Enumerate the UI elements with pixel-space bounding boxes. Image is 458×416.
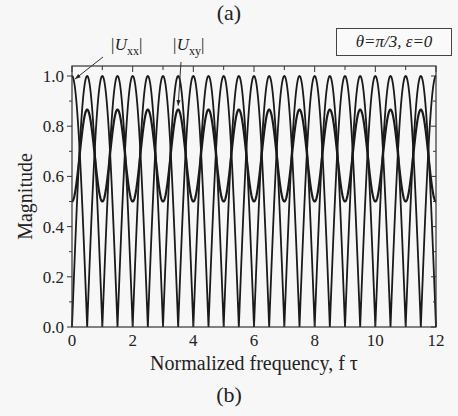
y-axis-title: Magnitude bbox=[14, 153, 37, 240]
curves-group bbox=[72, 76, 436, 327]
x-tick-label: 4 bbox=[189, 331, 198, 350]
panel-label-b: (b) bbox=[0, 382, 458, 408]
annotation-label: |Uxx| bbox=[110, 35, 142, 58]
y-tick-label: 0.4 bbox=[43, 218, 65, 237]
x-axis-title: Normalized frequency, f τ bbox=[150, 352, 358, 375]
x-tick-label: 6 bbox=[250, 331, 259, 350]
x-tick-label: 10 bbox=[367, 331, 384, 350]
x-tick-label: 2 bbox=[128, 331, 137, 350]
y-tick-label: 0.2 bbox=[43, 268, 64, 287]
y-tick-label: 1.0 bbox=[43, 67, 64, 86]
x-tick-label: 12 bbox=[428, 331, 445, 350]
y-tick-label: 0.8 bbox=[43, 117, 64, 136]
y-tick-label: 0.0 bbox=[43, 318, 64, 337]
annotation-arrowhead bbox=[176, 100, 180, 106]
annotations-group: |Uxx||Uxy| bbox=[75, 35, 204, 106]
x-tick-label: 8 bbox=[310, 331, 319, 350]
annotation-label: |Uxy| bbox=[172, 35, 204, 58]
y-tick-label: 0.6 bbox=[43, 167, 64, 186]
x-tick-label: 0 bbox=[68, 331, 77, 350]
magnitude-chart: 0246810120.00.20.40.60.81.0 |Uxx||Uxy| N… bbox=[0, 0, 458, 416]
